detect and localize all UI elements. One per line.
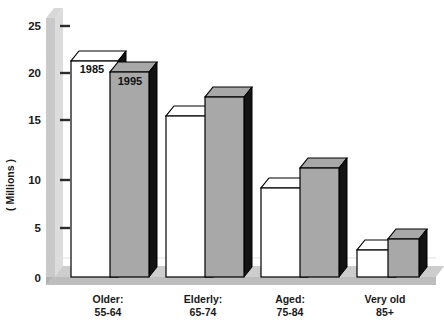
bar-1995-very-old-front <box>388 239 419 277</box>
y-tick-label-20: 20 <box>28 67 41 79</box>
bar-1995-older-front <box>110 72 149 277</box>
bar-1985-older-top <box>71 51 126 61</box>
bar-1995-elderly <box>205 87 252 277</box>
bar-1995-older-side <box>149 62 157 277</box>
bar-1995-aged-side <box>339 158 347 277</box>
cat-label-older-line2: 55-64 <box>95 306 122 318</box>
axis-wall-side <box>55 8 63 277</box>
y-tick-label-25: 25 <box>28 20 41 32</box>
cat-label-older-line1: Older: <box>93 293 124 305</box>
bar-1995-older <box>110 62 157 277</box>
cat-label-aged-line2: 75-84 <box>277 306 304 318</box>
axis-wall-front <box>46 18 55 277</box>
cat-label-aged-line1: Aged: <box>275 293 305 305</box>
bar-group-older: 1985 1995 <box>71 51 157 277</box>
cat-label-elderly-line1: Elderly: <box>184 293 223 305</box>
cat-label-very-old-line2: 85+ <box>376 306 394 318</box>
bar-chart: 25 20 15 10 5 0 ( Millions ) <box>0 0 444 325</box>
bar-1995-aged <box>300 158 347 277</box>
y-tick-label-0: 0 <box>35 272 41 284</box>
y-axis-title: ( Millions ) <box>4 159 16 211</box>
bar-1995-very-old <box>388 229 427 277</box>
cat-label-elderly-line2: 65-74 <box>190 306 217 318</box>
series-label-1995: 1995 <box>118 75 142 87</box>
bar-1995-elderly-side <box>244 87 252 277</box>
y-tick-label-5: 5 <box>35 222 42 234</box>
y-tick-label-10: 10 <box>28 174 41 186</box>
floor-front-face <box>46 277 436 285</box>
bar-1995-aged-front <box>300 168 339 277</box>
cat-label-very-old-line1: Very old <box>365 293 406 305</box>
bar-1995-elderly-front <box>205 97 244 277</box>
bar-group-elderly <box>166 87 252 277</box>
series-label-1985: 1985 <box>80 63 104 75</box>
y-tick-label-15: 15 <box>28 114 41 126</box>
y-axis-wall-3d <box>46 8 63 277</box>
chart-svg: 25 20 15 10 5 0 ( Millions ) <box>0 0 444 325</box>
